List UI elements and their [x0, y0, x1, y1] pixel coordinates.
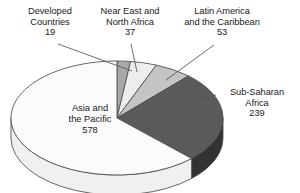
- pie-value-near-east-and-north-africa: 37: [89, 27, 171, 38]
- pie-label-latin-america-line2: and the Caribbean: [168, 17, 276, 28]
- pie-label-near-east-and-north-africa: Near East and North Africa 37: [89, 6, 171, 38]
- pie-label-sub-saharan-line1: Sub-Saharan: [218, 87, 296, 98]
- pie-value-developed-countries: 19: [12, 27, 88, 38]
- pie-label-sub-saharan-africa: Sub-Saharan Africa 239: [218, 87, 296, 119]
- leader-line-latin-america-and-the-caribbean: [166, 45, 214, 80]
- pie-label-sub-saharan-line2: Africa: [218, 98, 296, 109]
- pie-value-latin-america-and-the-caribbean: 53: [168, 27, 276, 38]
- pie-label-asia-line1: Asia and: [42, 103, 138, 114]
- pie-label-near-east-line2: North Africa: [89, 17, 171, 28]
- pie-chart-figure: Developed Countries 19 Near East and Nor…: [0, 0, 300, 193]
- pie-label-developed-countries: Developed Countries 19: [12, 6, 88, 38]
- pie-label-near-east-line1: Near East and: [89, 6, 171, 17]
- pie-label-asia-and-the-pacific: Asia and the Pacific 578: [42, 103, 138, 137]
- pie-label-latin-america-and-the-caribbean: Latin America and the Caribbean 53: [168, 6, 276, 38]
- pie-label-latin-america-line1: Latin America: [168, 6, 276, 17]
- pie-label-asia-line2: the Pacific: [42, 114, 138, 125]
- pie-value-asia-and-the-pacific: 578: [42, 125, 138, 136]
- pie-label-developed-countries-line1: Developed: [12, 6, 88, 17]
- pie-value-sub-saharan-africa: 239: [218, 108, 296, 119]
- pie-label-developed-countries-line2: Countries: [12, 17, 88, 28]
